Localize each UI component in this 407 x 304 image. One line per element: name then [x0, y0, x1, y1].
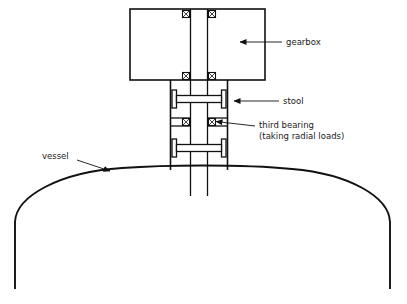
coupling-hub-upper — [177, 96, 222, 103]
bearing-gearbox-upper-right — [209, 11, 216, 18]
coupling-plate-left-upper — [172, 90, 177, 108]
stool-structure — [171, 80, 228, 170]
bearing-third-right — [209, 119, 216, 126]
vessel-shell — [15, 166, 390, 290]
engineering-diagram: gearbox stool third bearing (taking radi… — [0, 0, 407, 304]
coupling-plate-left-lower — [172, 139, 177, 157]
upper-coupling-flange — [172, 90, 226, 108]
leader-third-bearing — [216, 122, 255, 127]
label-stool: stool — [283, 96, 304, 106]
coupling-hub-lower — [177, 145, 222, 152]
bearing-symbols — [183, 11, 216, 126]
bearing-gearbox-upper-left — [183, 11, 190, 18]
lower-coupling-flange — [172, 139, 226, 157]
label-vessel: vessel — [42, 151, 69, 161]
vessel-dome-curve — [15, 166, 390, 223]
leader-vessel — [77, 160, 110, 171]
label-third-bearing-line2: (taking radial loads) — [259, 131, 344, 141]
bearing-third-left — [183, 119, 190, 126]
bearing-gearbox-lower-left — [183, 73, 190, 80]
label-third-bearing-line1: third bearing — [259, 120, 314, 130]
bearing-gearbox-lower-right — [209, 73, 216, 80]
gearbox-outline — [130, 9, 265, 80]
coupling-plate-right-upper — [222, 90, 227, 108]
diagram-canvas: gearbox stool third bearing (taking radi… — [0, 0, 407, 304]
label-gearbox: gearbox — [286, 37, 321, 47]
coupling-plate-right-lower — [222, 139, 227, 157]
gearbox-housing — [130, 9, 265, 80]
